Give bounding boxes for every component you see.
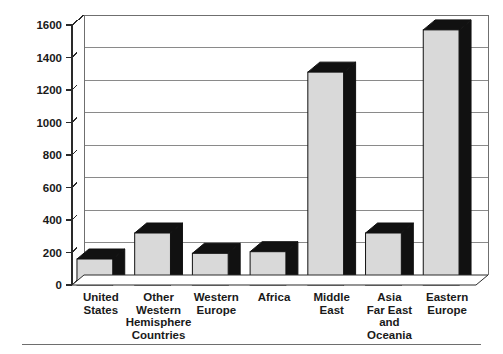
bar-5 — [308, 62, 356, 285]
y-tick-label-0: 0 — [56, 279, 62, 291]
bar-chart-figure: 02004006008001000120014001600 UnitedStat… — [0, 0, 503, 354]
bars-group — [77, 20, 471, 285]
bar-7 — [423, 20, 471, 285]
x-category-label-1: UnitedStates — [83, 291, 119, 316]
x-category-label-2: OtherWesternHemisphereCountries — [126, 291, 192, 341]
plot-floor — [72, 275, 488, 285]
y-tick-label-400: 400 — [43, 214, 62, 226]
x-category-label-5: MiddleEast — [314, 291, 350, 316]
y-tick-label-800: 800 — [43, 149, 62, 161]
y-tick-label-1400: 1400 — [36, 52, 62, 64]
footer-divider — [22, 344, 481, 345]
y-tick-label-1200: 1200 — [36, 84, 62, 96]
y-tick-label-1000: 1000 — [36, 117, 62, 129]
y-axis-ticks: 02004006008001000120014001600 — [36, 19, 77, 291]
y-tick-label-600: 600 — [43, 182, 62, 194]
x-category-label-4: Africa — [258, 291, 291, 303]
bar-side-face — [459, 20, 471, 285]
bar-side-face — [344, 62, 356, 285]
bar-front-face — [308, 72, 344, 285]
chart-canvas: 02004006008001000120014001600 UnitedStat… — [0, 0, 503, 354]
y-tick-label-200: 200 — [43, 247, 62, 259]
x-axis-category-labels: UnitedStatesOtherWesternHemisphereCountr… — [83, 291, 468, 341]
x-category-label-3: WesternEurope — [194, 291, 239, 316]
y-tick-label-1600: 1600 — [36, 19, 62, 31]
bar-front-face — [423, 30, 459, 285]
x-category-label-7: EasternEurope — [426, 291, 468, 316]
x-category-label-6: AsiaFar EastandOceania — [367, 291, 413, 341]
